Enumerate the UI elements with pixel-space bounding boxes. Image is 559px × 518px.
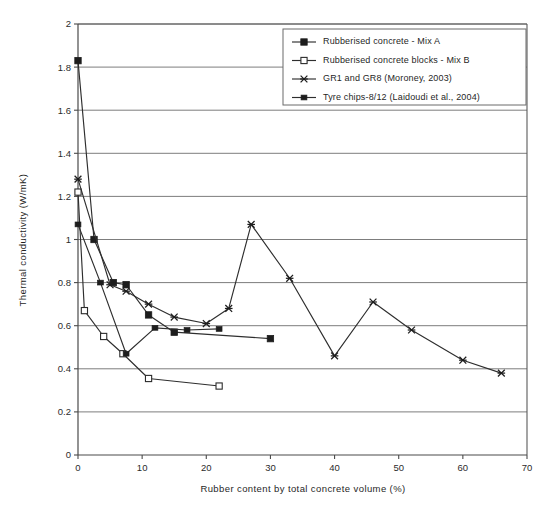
x-tick-label: 50 [393, 462, 404, 473]
x-tick-label: 10 [137, 462, 148, 473]
marker-filled-square-small [184, 328, 190, 333]
marker-cross-x [145, 301, 153, 308]
y-tick-label: 0.6 [58, 320, 71, 331]
marker-filled-square [145, 312, 151, 318]
y-tick-label: 0.2 [58, 406, 71, 417]
marker-filled-square-small [75, 222, 81, 227]
y-tick-label: 1 [66, 234, 71, 245]
x-tick-label: 40 [329, 462, 340, 473]
y-tick-label: 0 [66, 449, 71, 460]
marker-open-square [101, 333, 107, 339]
marker-cross-x [225, 305, 233, 312]
marker-cross-x [408, 327, 416, 334]
series-line [78, 179, 501, 373]
thermal-conductivity-line-chart: 00.20.40.60.811.21.41.61.82 010203040506… [0, 0, 559, 518]
marker-filled-square-small [98, 280, 104, 285]
marker-open-square [216, 383, 222, 389]
x-axis-ticks: 010203040506070 [75, 455, 532, 473]
y-tick-label: 1.6 [58, 105, 71, 116]
marker-cross-x [247, 221, 255, 228]
marker-open-square [81, 308, 87, 314]
series-line [78, 192, 219, 386]
x-tick-label: 60 [458, 462, 469, 473]
marker-open-square [301, 57, 307, 63]
marker-filled-square-small [123, 351, 129, 356]
marker-cross-x [459, 357, 467, 364]
data-series-group [74, 57, 505, 389]
marker-cross-x [122, 288, 130, 295]
marker-filled-square [171, 329, 177, 335]
legend-label: GR1 and GR8 (Moroney, 2003) [323, 73, 452, 83]
x-axis-title: Rubber content by total concrete volume … [200, 483, 405, 494]
x-tick-label: 30 [265, 462, 276, 473]
marker-filled-square [123, 282, 129, 288]
marker-filled-square [267, 335, 273, 341]
series-0 [75, 57, 274, 341]
x-tick-label: 20 [201, 462, 212, 473]
marker-filled-square [75, 57, 81, 63]
series-1 [75, 189, 222, 389]
marker-open-square [145, 375, 151, 381]
marker-filled-square-small [216, 327, 222, 332]
marker-cross-x [286, 275, 294, 282]
y-tick-label: 1.4 [58, 148, 71, 159]
chart-figure: 00.20.40.60.811.21.41.61.82 010203040506… [0, 0, 559, 518]
series-2 [74, 176, 505, 377]
marker-cross-x [498, 370, 506, 377]
marker-cross-x [369, 299, 377, 306]
y-tick-label: 1.2 [58, 191, 71, 202]
marker-filled-square-small [152, 325, 158, 330]
legend-label: Rubberised concrete blocks - Mix B [323, 55, 470, 65]
x-tick-label: 0 [75, 462, 80, 473]
marker-cross-x [170, 314, 178, 321]
marker-filled-square-small [301, 95, 307, 100]
y-tick-label: 0.8 [58, 277, 71, 288]
y-axis-title: Thermal conductivity (W/mK) [17, 174, 28, 307]
marker-cross-x [331, 352, 339, 359]
series-line [78, 61, 270, 339]
chart-legend: Rubberised concrete - Mix ARubberised co… [283, 29, 526, 105]
legend-label: Rubberised concrete - Mix A [323, 36, 440, 46]
y-tick-label: 2 [66, 18, 71, 29]
y-axis-ticks: 00.20.40.60.811.21.41.61.82 [58, 18, 78, 460]
legend-label: Tyre chips-8/12 (Laidoudi et al., 2004) [323, 92, 480, 102]
marker-open-square [75, 189, 81, 195]
x-tick-label: 70 [522, 462, 533, 473]
y-tick-label: 0.4 [58, 363, 71, 374]
y-tick-label: 1.8 [58, 62, 71, 73]
marker-filled-square [301, 39, 307, 45]
